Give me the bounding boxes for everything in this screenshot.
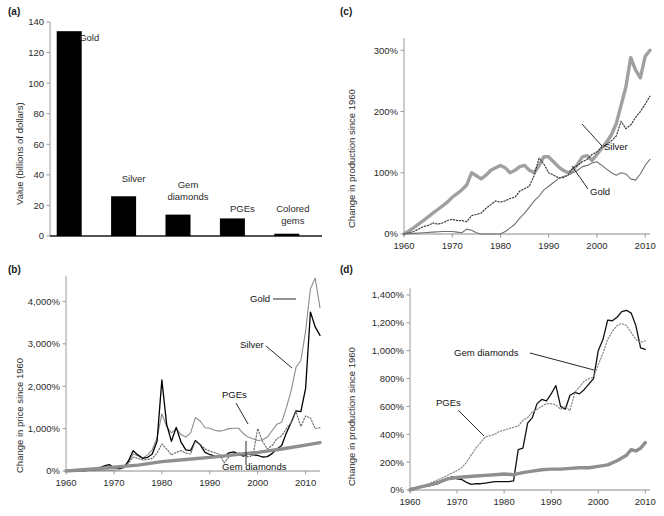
panel-a-annotation-2: Gemdiamonds — [167, 179, 208, 202]
svg-d-x-tick-label: 1980 — [494, 496, 515, 507]
svg-c-y-tick-label: 300% — [374, 45, 399, 56]
series-label-pges: PGEs — [222, 389, 247, 400]
series-label-gem-diamonds: Gem diamonds — [222, 461, 287, 472]
svg-d-leader-0 — [530, 353, 594, 370]
series-label-silver: Silver — [240, 339, 264, 350]
bar-gold[interactable] — [57, 31, 82, 236]
svg-c-x-tick-label: 1970 — [442, 240, 463, 251]
panel-a-y-tick-label: 120 — [28, 47, 44, 58]
svg-c-x-tick-label: 2000 — [586, 240, 607, 251]
panel-a-y-tick-label: 40 — [33, 169, 44, 180]
panel-d-plot: 0%200%400%600%800%1,000%1,200%1,400%1960… — [332, 258, 664, 516]
svg-c-leader-1 — [572, 166, 588, 189]
bar-label-line2: gems — [281, 215, 304, 226]
series-label-gem-diamonds: Gem diamonds — [454, 347, 519, 358]
svg-b-x-tick-label: 2000 — [247, 477, 268, 488]
svg-d-x-tick-label: 2000 — [588, 496, 609, 507]
panel-a-annotation-4: Coloredgems — [276, 203, 309, 226]
panel-a-y-tick-label: 140 — [28, 16, 44, 27]
series-label-gold: Gold — [250, 293, 270, 304]
panel-d: (d) Change in production since 1960 0%20… — [332, 258, 664, 516]
svg-c-y-tick-label: 200% — [374, 106, 399, 117]
panel-a-annotation-0: Gold — [79, 32, 99, 43]
series-silver — [404, 96, 650, 234]
series-gold — [410, 443, 645, 490]
panel-a-y-tick-label: 60 — [33, 139, 44, 150]
svg-d-y-tick-label: 1,400% — [372, 289, 405, 300]
svg-c-x-tick-label: 2010 — [635, 240, 656, 251]
panel-b-plot: 0%1,000%2,000%3,000%4,000%19601970198019… — [0, 258, 332, 516]
panel-a-plot: 020406080100120140GoldSilverGemdiamondsP… — [0, 0, 332, 258]
svg-c-x-tick-label: 1960 — [393, 240, 414, 251]
svg-d-leader-1 — [458, 410, 484, 436]
panel-a-annotation-3: PGEs — [230, 203, 255, 214]
panel-c-plot: 0%100%200%300%196019701980199020002010Si… — [332, 0, 664, 258]
svg-b-leader-1 — [266, 346, 292, 368]
panel-a-y-tick-label: 100 — [28, 78, 44, 89]
svg-d-y-tick-label: 200% — [380, 457, 405, 468]
bar-label: Silver — [122, 173, 146, 184]
series-gold — [404, 159, 650, 234]
svg-b-y-tick-label: 3,000% — [28, 338, 61, 349]
series-label-gold: Gold — [590, 186, 610, 197]
svg-d-y-tick-label: 1,200% — [372, 317, 405, 328]
svg-d-y-tick-label: 0% — [390, 484, 404, 495]
panel-a-y-tick-label: 0 — [39, 230, 44, 241]
svg-d-x-tick-label: 1960 — [399, 496, 420, 507]
bar-label: Gold — [79, 32, 99, 43]
svg-c-y-tick-label: 0% — [384, 228, 398, 239]
svg-b-y-tick-label: 2,000% — [28, 381, 61, 392]
svg-d-y-tick-label: 800% — [380, 373, 405, 384]
svg-b-x-tick-label: 1980 — [151, 477, 172, 488]
svg-d-x-tick-label: 1970 — [446, 496, 467, 507]
panel-a-y-tick-label: 80 — [33, 108, 44, 119]
series-label-pges: PGEs — [436, 397, 461, 408]
svg-b-y-tick-label: 1,000% — [28, 423, 61, 434]
svg-b-x-tick-label: 1990 — [199, 477, 220, 488]
svg-b-x-tick-label: 1970 — [103, 477, 124, 488]
svg-b-y-tick-label: 0% — [46, 465, 60, 476]
panel-a-annotation-1: Silver — [122, 173, 146, 184]
panel-b: (b) Change in price since 1960 0%1,000%2… — [0, 258, 332, 516]
svg-b-y-tick-label: 4,000% — [28, 296, 61, 307]
svg-d-x-tick-label: 2010 — [635, 496, 656, 507]
bar-label: Gem — [178, 179, 199, 190]
svg-b-x-tick-label: 1960 — [55, 477, 76, 488]
svg-d-y-tick-label: 400% — [380, 429, 405, 440]
panel-c: (c) Change in production since 1960 0%10… — [332, 0, 664, 258]
bar-gem-diamonds[interactable] — [166, 215, 191, 236]
svg-c-leader-0 — [582, 124, 602, 146]
four-panel-figure: (a) Value (billions of dollars) 02040608… — [0, 0, 664, 516]
bar-colored-gems[interactable] — [274, 234, 299, 236]
svg-b-x-tick-label: 2010 — [295, 477, 316, 488]
panel-a: (a) Value (billions of dollars) 02040608… — [0, 0, 332, 258]
svg-c-x-tick-label: 1980 — [490, 240, 511, 251]
bar-label-line2: diamonds — [167, 191, 208, 202]
svg-d-x-tick-label: 1990 — [541, 496, 562, 507]
bar-silver[interactable] — [111, 196, 136, 236]
bar-label: PGEs — [230, 203, 255, 214]
series-gold — [66, 278, 320, 471]
series-label-silver: Silver — [604, 141, 628, 152]
panel-a-y-tick-label: 20 — [33, 200, 44, 211]
svg-c-x-tick-label: 1990 — [538, 240, 559, 251]
svg-b-leader-2 — [236, 403, 248, 424]
svg-d-y-tick-label: 1,000% — [372, 345, 405, 356]
svg-c-y-tick-label: 100% — [374, 167, 399, 178]
bar-pges[interactable] — [220, 218, 245, 236]
bar-label: Colored — [276, 203, 309, 214]
svg-d-y-tick-label: 600% — [380, 401, 405, 412]
